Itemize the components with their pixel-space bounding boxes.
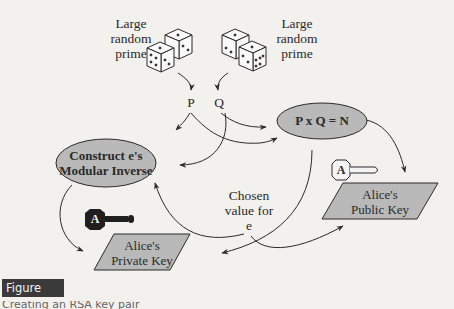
label-line: value for <box>217 203 281 218</box>
chosen-e-label: Chosen value for e <box>217 188 281 233</box>
public-key-letter: A <box>334 163 348 178</box>
modular-inverse-label: Construct e's Modular Inverse <box>56 148 156 178</box>
label-line: Private Key <box>102 253 182 268</box>
label-line: Alice's <box>102 238 182 253</box>
label-line: prime <box>272 46 322 61</box>
figure-caption: Creating an RSA key pair <box>2 301 192 309</box>
label-line: Chosen <box>217 188 281 203</box>
label-line: Modular Inverse <box>56 163 156 178</box>
label-line: random <box>272 31 322 46</box>
label-line: Public Key <box>340 202 420 217</box>
variable-p: P <box>185 95 197 110</box>
label-line: prime <box>106 46 156 61</box>
figure-label: Figure 8.17 <box>2 279 64 297</box>
label-line: Large <box>272 16 322 31</box>
public-key-label: Alice's Public Key <box>340 187 420 217</box>
private-key-letter: A <box>88 212 102 227</box>
private-key-label: Alice's Private Key <box>102 238 182 268</box>
label-line: random <box>106 31 156 46</box>
variable-q: Q <box>212 95 226 110</box>
source-label-right: Large random prime <box>272 16 322 61</box>
label-line: e <box>217 218 281 233</box>
label-line: Large <box>106 16 156 31</box>
source-label-left: Large random prime <box>106 16 156 61</box>
dice-right-icon <box>222 29 266 71</box>
product-label: P x Q = N <box>277 113 367 128</box>
label-line: Construct e's <box>56 148 156 163</box>
label-line: Alice's <box>340 187 420 202</box>
